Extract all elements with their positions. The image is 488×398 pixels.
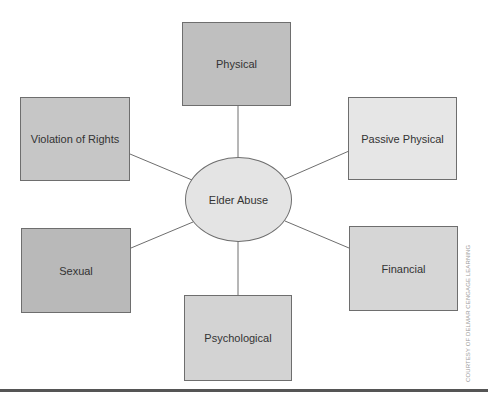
node-label: Physical: [216, 58, 257, 70]
node-violation-of-rights: Violation of Rights: [20, 97, 130, 181]
edge-passive-physical: [285, 151, 349, 179]
elder-abuse-diagram: Physical Violation of Rights Passive Phy…: [0, 0, 488, 398]
edge-financial: [285, 221, 349, 248]
center-label: Elder Abuse: [209, 194, 268, 206]
node-label: Sexual: [59, 265, 93, 277]
node-label: Financial: [381, 263, 425, 275]
node-label: Psychological: [204, 332, 271, 344]
image-credit: COURTESY OF DELMAR CENGAGE LEARNING: [463, 252, 473, 382]
bottom-divider: [0, 389, 488, 392]
edge-sexual: [131, 222, 193, 248]
node-passive-physical: Passive Physical: [348, 97, 457, 180]
node-psychological: Psychological: [184, 295, 292, 381]
edge-violation-of-rights: [130, 154, 192, 180]
node-sexual: Sexual: [21, 228, 131, 313]
node-label: Violation of Rights: [31, 133, 119, 145]
node-financial: Financial: [349, 226, 458, 311]
node-physical: Physical: [182, 22, 291, 106]
center-node-elder-abuse: Elder Abuse: [185, 157, 292, 242]
node-label: Passive Physical: [361, 133, 444, 145]
